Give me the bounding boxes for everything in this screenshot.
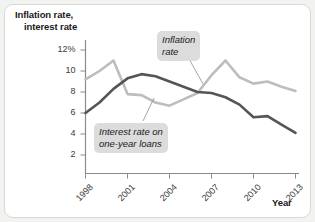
- series-line: [86, 61, 296, 106]
- y-tick-label: 4: [50, 128, 76, 138]
- y-tick-label: 8: [50, 86, 76, 96]
- y-tick-label: 6: [50, 107, 76, 117]
- y-tick-label: 12%: [50, 44, 76, 54]
- chart-figure: Inflation rate, interest rate Year 12%10…: [0, 0, 315, 222]
- callout-interest-line1: Interest rate on: [99, 126, 163, 137]
- y-tick-marks: [81, 50, 86, 155]
- y-axis-title-line1: Inflation rate,: [15, 9, 73, 20]
- callout-interest-line2: one-year loans: [99, 138, 162, 149]
- y-tick-label: 10: [50, 65, 76, 75]
- callout-interest-rate: Interest rate on one-year loans: [94, 123, 168, 153]
- callout-inflation-line1: Inflation: [162, 34, 195, 45]
- callout-leader-lines: [143, 57, 203, 121]
- callout-inflation-line2: rate: [162, 46, 178, 57]
- y-tick-label: 2: [50, 149, 76, 159]
- y-axis-title: Inflation rate, interest rate: [15, 9, 105, 33]
- x-tick-marks: [86, 174, 296, 179]
- y-axis-title-line2: interest rate: [15, 21, 105, 33]
- callout-inflation-rate: Inflation rate: [157, 31, 200, 61]
